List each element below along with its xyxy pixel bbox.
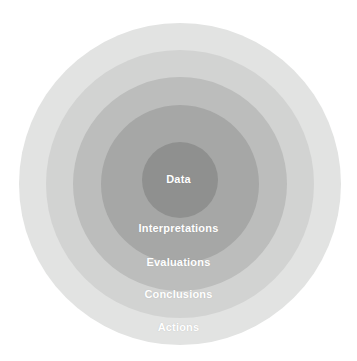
ring-label-actions: Actions <box>0 322 357 333</box>
ring-label-evaluations: Evaluations <box>0 257 357 268</box>
ring-label-data: Data <box>0 174 357 185</box>
concentric-circle-diagram: Data Interpretations Evaluations Conclus… <box>0 0 357 361</box>
ring-label-interpretations: Interpretations <box>0 223 357 234</box>
ring-label-conclusions: Conclusions <box>0 289 357 300</box>
